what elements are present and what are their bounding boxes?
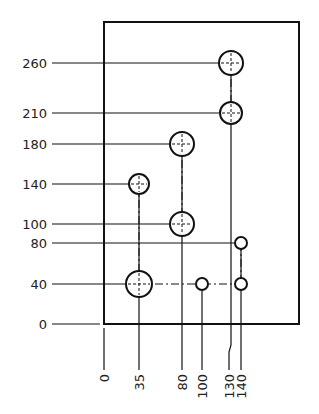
- y-label-0: 0: [39, 317, 47, 332]
- hole-140-40: [235, 278, 247, 290]
- x-label-100: 100: [195, 374, 210, 399]
- x-ordinate-labels: 0 35 80 100 130 140: [97, 374, 249, 399]
- hole-140-80: [235, 237, 247, 249]
- holes: [126, 51, 247, 297]
- y-label-140: 140: [22, 177, 47, 192]
- y-label-40: 40: [30, 277, 47, 292]
- drawing-canvas: 260 210 180 140 100 80 40 0 0 35 80 100 …: [0, 0, 319, 414]
- x-label-0: 0: [97, 374, 112, 382]
- x-label-80: 80: [175, 374, 190, 391]
- center-marks: [128, 53, 241, 295]
- y-label-210: 210: [22, 106, 47, 121]
- y-ordinate-labels: 260 210 180 140 100 80 40 0: [22, 56, 47, 332]
- y-label-80: 80: [30, 236, 47, 251]
- x-label-140: 140: [234, 374, 249, 399]
- y-label-260: 260: [22, 56, 47, 71]
- y-label-180: 180: [22, 137, 47, 152]
- hole-100-40: [196, 278, 208, 290]
- x-label-35: 35: [132, 374, 147, 391]
- y-label-100: 100: [22, 217, 47, 232]
- centerlines: [139, 63, 241, 284]
